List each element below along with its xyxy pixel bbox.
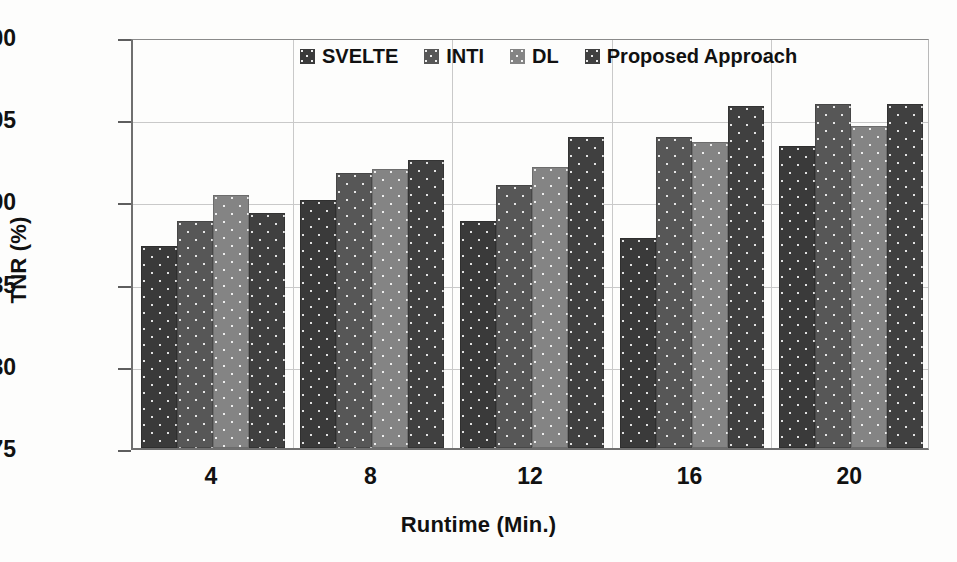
bar-proposed-approach[interactable] — [728, 106, 764, 448]
bar-proposed-approach[interactable] — [249, 213, 285, 448]
legend-swatch-icon — [510, 49, 525, 64]
y-tick-label: 80 — [0, 354, 16, 381]
y-tick-mark — [118, 39, 131, 41]
y-tick-label: 95 — [0, 107, 16, 134]
legend-label: SVELTE — [322, 46, 398, 66]
bar-dl[interactable] — [692, 142, 728, 448]
bar-svelte[interactable] — [620, 238, 656, 448]
bar-dl[interactable] — [213, 195, 249, 448]
bar-proposed-approach[interactable] — [408, 160, 444, 448]
bar-chart-figure: TNR (%) 7580859095100 48121620 Runtime (… — [0, 0, 957, 562]
y-tick-label: 75 — [0, 436, 16, 463]
bar-proposed-approach[interactable] — [887, 104, 923, 448]
y-tick-mark — [118, 286, 131, 288]
x-tick-label: 4 — [151, 463, 271, 490]
x-axis-title: Runtime (Min.) — [0, 512, 957, 538]
bar-proposed-approach[interactable] — [568, 137, 604, 448]
legend-swatch-icon — [300, 49, 315, 64]
legend-swatch-icon — [585, 49, 600, 64]
bar-inti[interactable] — [336, 173, 372, 448]
bar-inti[interactable] — [177, 221, 213, 448]
bar-group — [293, 40, 453, 448]
bar-group — [771, 40, 931, 448]
plot-area — [131, 39, 929, 450]
y-tick-mark — [118, 203, 131, 205]
legend-swatch-icon — [424, 49, 439, 64]
legend-label: INTI — [446, 46, 484, 66]
y-tick-mark — [118, 368, 131, 370]
bar-dl[interactable] — [372, 169, 408, 448]
bar-group — [133, 40, 293, 448]
bar-svelte[interactable] — [460, 221, 496, 448]
y-tick-mark — [118, 121, 131, 123]
bar-dl[interactable] — [851, 126, 887, 448]
legend-item-inti[interactable]: INTI — [424, 46, 484, 66]
y-tick-label: 90 — [0, 189, 16, 216]
bar-group — [452, 40, 612, 448]
bar-inti[interactable] — [656, 137, 692, 448]
legend-item-dl[interactable]: DL — [510, 46, 559, 66]
x-tick-label: 12 — [470, 463, 590, 490]
bar-svelte[interactable] — [141, 246, 177, 448]
chart-legend: SVELTEINTIDLProposed Approach — [300, 46, 797, 66]
legend-label: DL — [532, 46, 559, 66]
y-tick-label: 85 — [0, 272, 16, 299]
legend-item-proposed-approach[interactable]: Proposed Approach — [585, 46, 797, 66]
bar-svelte[interactable] — [779, 146, 815, 448]
bar-inti[interactable] — [815, 104, 851, 448]
x-tick-label: 8 — [310, 463, 430, 490]
bar-svelte[interactable] — [300, 200, 336, 448]
legend-label: Proposed Approach — [607, 46, 797, 66]
x-tick-label: 16 — [630, 463, 750, 490]
bar-group — [612, 40, 772, 448]
y-tick-label: 100 — [0, 25, 16, 52]
y-tick-mark — [118, 450, 131, 452]
bar-inti[interactable] — [496, 185, 532, 448]
bar-dl[interactable] — [532, 167, 568, 448]
x-tick-label: 20 — [789, 463, 909, 490]
legend-item-svelte[interactable]: SVELTE — [300, 46, 398, 66]
